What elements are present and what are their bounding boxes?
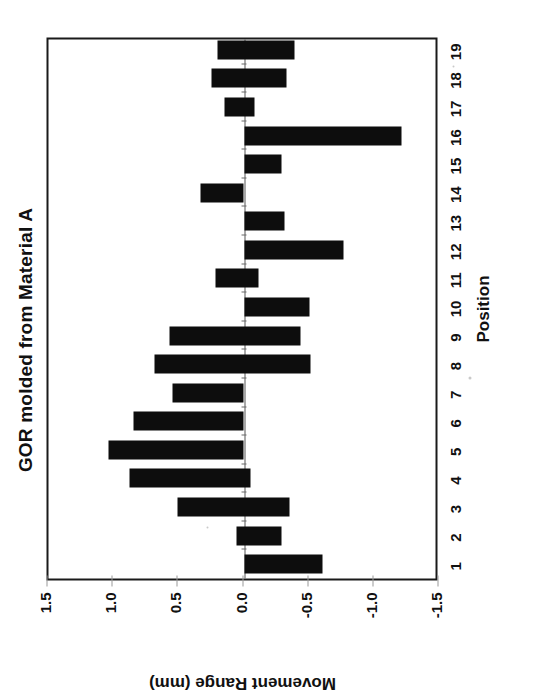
bar-position-19 xyxy=(217,40,294,59)
category-tick xyxy=(241,120,246,121)
category-tick xyxy=(241,63,246,64)
y-axis-tick xyxy=(111,575,112,586)
x-tick-label-17: 17 xyxy=(446,95,463,121)
category-tick xyxy=(241,234,246,235)
bar-position-13 xyxy=(244,211,284,230)
plot-area xyxy=(46,37,437,580)
y-tick-label--0.5: -0.5 xyxy=(297,592,314,644)
bar-position-12 xyxy=(244,240,343,259)
category-tick xyxy=(241,520,246,521)
y-tick-label-1.0: 1.0 xyxy=(101,592,118,644)
x-tick-label-11: 11 xyxy=(446,267,463,293)
y-tick-label-0.0: 0.0 xyxy=(232,592,249,644)
category-tick xyxy=(241,91,246,92)
x-tick-label-14: 14 xyxy=(446,181,463,207)
bar-position-8 xyxy=(154,354,310,373)
bar-position-15 xyxy=(244,154,282,173)
bar-position-3 xyxy=(177,497,289,516)
y-tick-label--1.0: -1.0 xyxy=(362,592,379,644)
category-tick xyxy=(241,377,246,378)
bar-position-16 xyxy=(244,126,402,145)
x-tick-label-2: 2 xyxy=(446,524,463,550)
x-tick-label-4: 4 xyxy=(446,467,463,493)
category-tick xyxy=(241,406,246,407)
x-tick-label-1: 1 xyxy=(446,553,463,579)
bar-position-1 xyxy=(244,554,322,573)
x-tick-label-16: 16 xyxy=(446,124,463,150)
y-tick-label--1.5: -1.5 xyxy=(427,592,444,644)
x-tick-label-18: 18 xyxy=(446,67,463,93)
category-tick xyxy=(241,348,246,349)
x-axis-title: Position xyxy=(473,275,493,342)
y-tick-label-0.5: 0.5 xyxy=(166,592,183,644)
x-tick-label-3: 3 xyxy=(446,496,463,522)
bar-position-11 xyxy=(215,268,258,287)
scan-speck xyxy=(206,526,208,528)
bar-position-9 xyxy=(169,326,299,345)
x-tick-label-15: 15 xyxy=(446,153,463,179)
category-tick xyxy=(241,177,246,178)
scan-speck xyxy=(468,376,471,379)
bar-position-10 xyxy=(244,297,309,316)
bar-position-7 xyxy=(172,383,244,402)
y-tick-label-1.5: 1.5 xyxy=(36,592,53,644)
bar-position-14 xyxy=(200,183,243,202)
y-axis-tick xyxy=(46,575,47,586)
scan-speck xyxy=(452,65,454,67)
bar-position-6 xyxy=(133,411,244,430)
bar-position-2 xyxy=(236,526,282,545)
y-axis-tick xyxy=(372,575,373,586)
y-axis-tick xyxy=(437,575,438,586)
category-tick xyxy=(241,148,246,149)
x-tick-label-12: 12 xyxy=(446,238,463,264)
category-tick xyxy=(241,205,246,206)
x-tick-label-7: 7 xyxy=(446,381,463,407)
bar-position-4 xyxy=(129,468,250,487)
bar-position-17 xyxy=(224,97,254,116)
category-tick xyxy=(241,320,246,321)
y-axis-tick xyxy=(307,575,308,586)
category-tick xyxy=(241,434,246,435)
category-tick xyxy=(241,263,246,264)
bar-position-5 xyxy=(108,440,244,459)
y-axis-tick xyxy=(242,575,243,586)
category-tick xyxy=(241,548,246,549)
x-tick-label-13: 13 xyxy=(446,210,463,236)
bar-position-18 xyxy=(211,68,287,87)
x-tick-label-6: 6 xyxy=(446,410,463,436)
chart-title: GOR molded from Material A xyxy=(14,0,36,679)
category-tick xyxy=(241,463,246,464)
x-tick-label-8: 8 xyxy=(446,353,463,379)
x-tick-label-9: 9 xyxy=(446,324,463,350)
x-tick-label-5: 5 xyxy=(446,438,463,464)
y-axis-title: Movement Range (mm) xyxy=(148,672,335,692)
x-tick-label-19: 19 xyxy=(446,38,463,64)
y-axis-tick xyxy=(176,575,177,586)
category-tick xyxy=(241,291,246,292)
category-tick xyxy=(241,491,246,492)
x-tick-label-10: 10 xyxy=(446,296,463,322)
